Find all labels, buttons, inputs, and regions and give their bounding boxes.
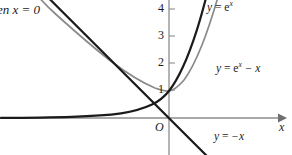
- curve-exp: [1, 0, 208, 118]
- curve-label-exp-exponent: x: [229, 0, 232, 8]
- caption-fragment: en x = 0: [0, 3, 40, 16]
- x-axis-label: x: [279, 121, 284, 133]
- curve-label-exp-minus-x: y = ex − x: [216, 63, 260, 75]
- plot-canvas: [0, 0, 292, 155]
- math-figure: en x = 0 4 3 2 1 O x y = ex y = ex − x y…: [0, 0, 292, 155]
- curve-label-neg-x: y = −x: [214, 131, 244, 143]
- y-tick-label-4: 4: [152, 2, 164, 14]
- curve-label-neg-x-tail: −x: [231, 130, 244, 142]
- origin-label: O: [155, 121, 164, 133]
- y-tick-label-1: 1: [152, 83, 164, 95]
- curve-label-exp-minus-x-eq: =: [221, 62, 233, 74]
- curve-label-exp-minus-x-tail: − x: [242, 62, 261, 74]
- y-tick-label-2: 2: [152, 56, 164, 68]
- y-tick-label-3: 3: [152, 29, 164, 41]
- curve-label-neg-x-eq: =: [219, 130, 231, 142]
- curve-label-exp: y = ex: [207, 2, 233, 14]
- curve-label-exp-eq: =: [212, 1, 224, 13]
